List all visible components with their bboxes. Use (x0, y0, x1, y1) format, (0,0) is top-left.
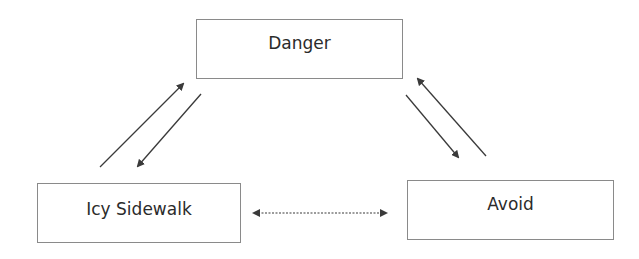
node-danger: Danger (196, 19, 403, 79)
node-label: Icy Sidewalk (86, 199, 191, 219)
node-icy-sidewalk: Icy Sidewalk (37, 183, 241, 243)
arrow-icy-to-danger (100, 84, 183, 167)
arrow-avoid-to-danger (418, 79, 486, 156)
arrow-danger-to-icy (138, 94, 201, 166)
arrow-danger-to-avoid (406, 95, 458, 157)
node-label: Avoid (487, 194, 534, 214)
node-avoid: Avoid (407, 180, 614, 240)
node-label: Danger (268, 33, 331, 53)
